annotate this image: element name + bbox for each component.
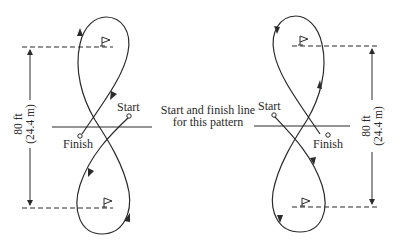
right-start-label: Start [258,100,281,113]
left-dimension-feet: 80 ft [12,98,24,150]
left-start-marker [127,114,131,118]
start-finish-line-caption: Start and finish line for this pattern [152,104,264,128]
left-bottom-flag-icon [102,198,112,207]
right-start-marker [272,113,276,117]
left-dimension-label: 80 ft (24.4 m) [12,98,36,150]
left-top-flag-icon [100,37,110,46]
right-dimension-label: 80 ft (24.4 m) [360,100,384,152]
left-figure-eight-path [77,17,130,234]
left-arrow-upper-diag [110,91,117,100]
right-finish-label: Finish [313,138,343,151]
right-dimension-meters: (24.4 m) [372,100,384,152]
right-dimension-feet: 80 ft [360,100,372,152]
left-arrow-lower-diag [88,168,94,177]
right-figure-eight-path [272,16,325,232]
left-pattern [22,17,152,234]
left-dimension-meters: (24.4 m) [24,98,36,150]
caption-line-2: for this pattern [152,116,264,128]
right-top-flag-icon [298,36,308,45]
left-start-label: Start [117,101,140,114]
right-bottom-flag-icon [300,198,310,206]
left-arrow-top-loop [77,28,83,36]
left-finish-label: Finish [63,138,93,151]
